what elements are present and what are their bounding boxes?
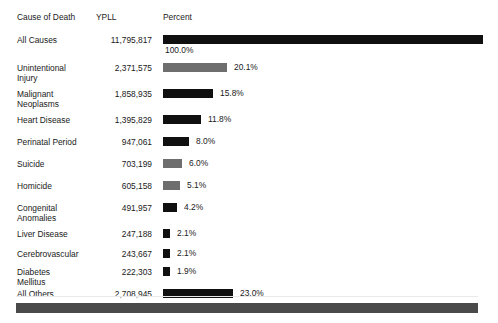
row-ypll-value: 947,061 xyxy=(72,137,152,147)
ypll-chart: Cause of Death YPLL Percent All Causes11… xyxy=(0,0,498,323)
row-ypll-value: 2,371,575 xyxy=(72,63,152,73)
row-percent-label: 2.1% xyxy=(177,228,196,238)
row-bar xyxy=(163,267,170,276)
row-ypll-value: 605,158 xyxy=(72,181,152,191)
chart-row: Heart Disease1,395,82911.8% xyxy=(0,115,498,137)
chart-row: Suicide703,1996.0% xyxy=(0,159,498,181)
row-ypll-value: 1,858,935 xyxy=(72,89,152,99)
row-percent-label: 4.2% xyxy=(184,202,203,212)
row-bar xyxy=(163,63,227,72)
column-header-percent: Percent xyxy=(163,12,192,23)
row-bar xyxy=(163,35,483,44)
row-percent-label: 8.0% xyxy=(196,136,215,146)
row-percent-label: 20.1% xyxy=(234,62,258,72)
row-ypll-value: 222,303 xyxy=(72,267,152,277)
row-ypll-value: 2,708,945 xyxy=(72,289,152,299)
row-percent-label: 1.9% xyxy=(177,266,196,276)
row-ypll-value: 703,199 xyxy=(72,159,152,169)
row-ypll-value: 491,957 xyxy=(72,203,152,213)
row-bar xyxy=(163,203,177,212)
chart-row: Liver Disease247,1882.1% xyxy=(0,229,498,251)
chart-row: All Causes11,795,817100.0% xyxy=(0,35,498,57)
row-percent-label: 2.1% xyxy=(177,248,196,258)
row-bar xyxy=(163,115,201,124)
row-ypll-value: 11,795,817 xyxy=(72,35,152,45)
row-bar xyxy=(163,137,189,146)
row-ypll-value: 243,667 xyxy=(72,249,152,259)
chart-row: Unintentional Injury2,371,57520.1% xyxy=(0,63,498,85)
footer-bar xyxy=(16,303,478,313)
row-bar xyxy=(163,181,180,190)
chart-row: Diabetes Mellitus222,3031.9% xyxy=(0,267,498,289)
row-percent-label: 100.0% xyxy=(165,45,193,55)
chart-row: Homicide605,1585.1% xyxy=(0,181,498,203)
row-percent-label: 6.0% xyxy=(189,158,208,168)
row-ypll-value: 247,188 xyxy=(72,229,152,239)
row-percent-label: 5.1% xyxy=(187,180,206,190)
baseline-rule xyxy=(16,296,478,297)
column-header-ypll: YPLL xyxy=(96,12,117,23)
column-header-cause-of-death: Cause of Death xyxy=(17,12,97,23)
chart-row: Perinatal Period947,0618.0% xyxy=(0,137,498,159)
row-percent-label: 11.8% xyxy=(208,114,231,124)
chart-row: Malignant Neoplasms1,858,93515.8% xyxy=(0,89,498,111)
row-bar xyxy=(163,159,182,168)
row-percent-label: 15.8% xyxy=(220,88,244,98)
row-ypll-value: 1,395,829 xyxy=(72,115,152,125)
row-bar xyxy=(163,89,213,98)
chart-row: Congenital Anomalies491,9574.2% xyxy=(0,203,498,225)
row-bar xyxy=(163,249,170,258)
row-bar xyxy=(163,229,170,238)
